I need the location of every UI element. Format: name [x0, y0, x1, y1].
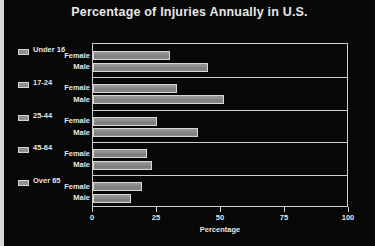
x-axis-tick-label: 25 [152, 213, 160, 222]
chart-container: Percentage of Injuries Annually in U.S. … [0, 0, 375, 246]
x-axis-tick-label: 0 [90, 213, 94, 222]
series-label: Female [4, 83, 90, 92]
bar [93, 51, 170, 60]
x-axis-tick [348, 207, 349, 212]
bar [93, 95, 224, 104]
group-separator [93, 142, 347, 143]
x-axis-tick-label: 50 [216, 213, 224, 222]
category-label-column: Under 16FemaleMale17-24FemaleMale25-44Fe… [4, 43, 90, 207]
series-label: Male [4, 160, 90, 169]
bar [93, 194, 131, 203]
x-axis-tick-label: 100 [342, 213, 355, 222]
series-label: Female [4, 182, 90, 191]
x-axis-tick [220, 207, 221, 212]
group-separator [93, 110, 347, 111]
group-separator [93, 175, 347, 176]
series-label: Female [4, 116, 90, 125]
x-axis-tick [92, 207, 93, 212]
x-axis-title: Percentage [92, 225, 348, 234]
bar [93, 117, 157, 126]
bar [93, 161, 152, 170]
series-label: Male [4, 62, 90, 71]
series-label: Male [4, 193, 90, 202]
bar [93, 182, 142, 191]
group-separator [93, 77, 347, 78]
series-label: Male [4, 95, 90, 104]
bar [93, 84, 177, 93]
x-axis-tick-label: 75 [280, 213, 288, 222]
bar [93, 149, 147, 158]
x-axis-tick [284, 207, 285, 212]
bar [93, 63, 208, 72]
series-label: Female [4, 51, 90, 60]
bar [93, 128, 198, 137]
plot-area [92, 43, 348, 207]
chart-title: Percentage of Injuries Annually in U.S. [4, 5, 375, 19]
series-label: Male [4, 128, 90, 137]
series-label: Female [4, 149, 90, 158]
x-axis-tick [156, 207, 157, 212]
